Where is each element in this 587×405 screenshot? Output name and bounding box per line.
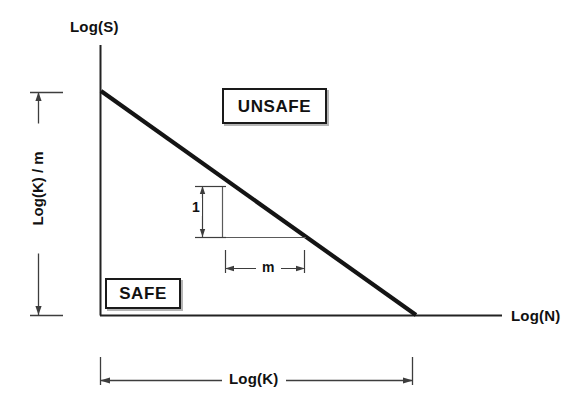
- region-label-unsafe: UNSAFE: [222, 88, 327, 124]
- dimension-label-run: m: [256, 260, 281, 274]
- dimension-arrow-run-left: [225, 266, 234, 271]
- dimension-label-logk: Log(K): [222, 371, 286, 386]
- dimension-arrow-rise-bottom: [200, 229, 205, 237]
- dimension-arrow-run-right: [296, 266, 305, 271]
- region-safe-text: SAFE: [119, 285, 167, 302]
- dimension-arrow-rise-top: [200, 186, 205, 194]
- dimension-arrow-right-bottom: [403, 377, 413, 383]
- dimension-label-rise: 1: [190, 198, 202, 216]
- dimension-arrow-top-left: [35, 92, 41, 101]
- region-unsafe-text: UNSAFE: [238, 98, 312, 115]
- dimension-arrow-bottom-left: [35, 306, 41, 315]
- x-axis-title: Log(N): [511, 308, 561, 323]
- sn-curve-diagram: [0, 0, 587, 405]
- y-axis-title: Log(S): [70, 19, 119, 34]
- region-label-safe: SAFE: [105, 278, 181, 309]
- dimension-label-logk-over-m: Log(K) / m: [27, 124, 48, 254]
- dimension-arrow-left-bottom: [100, 377, 110, 383]
